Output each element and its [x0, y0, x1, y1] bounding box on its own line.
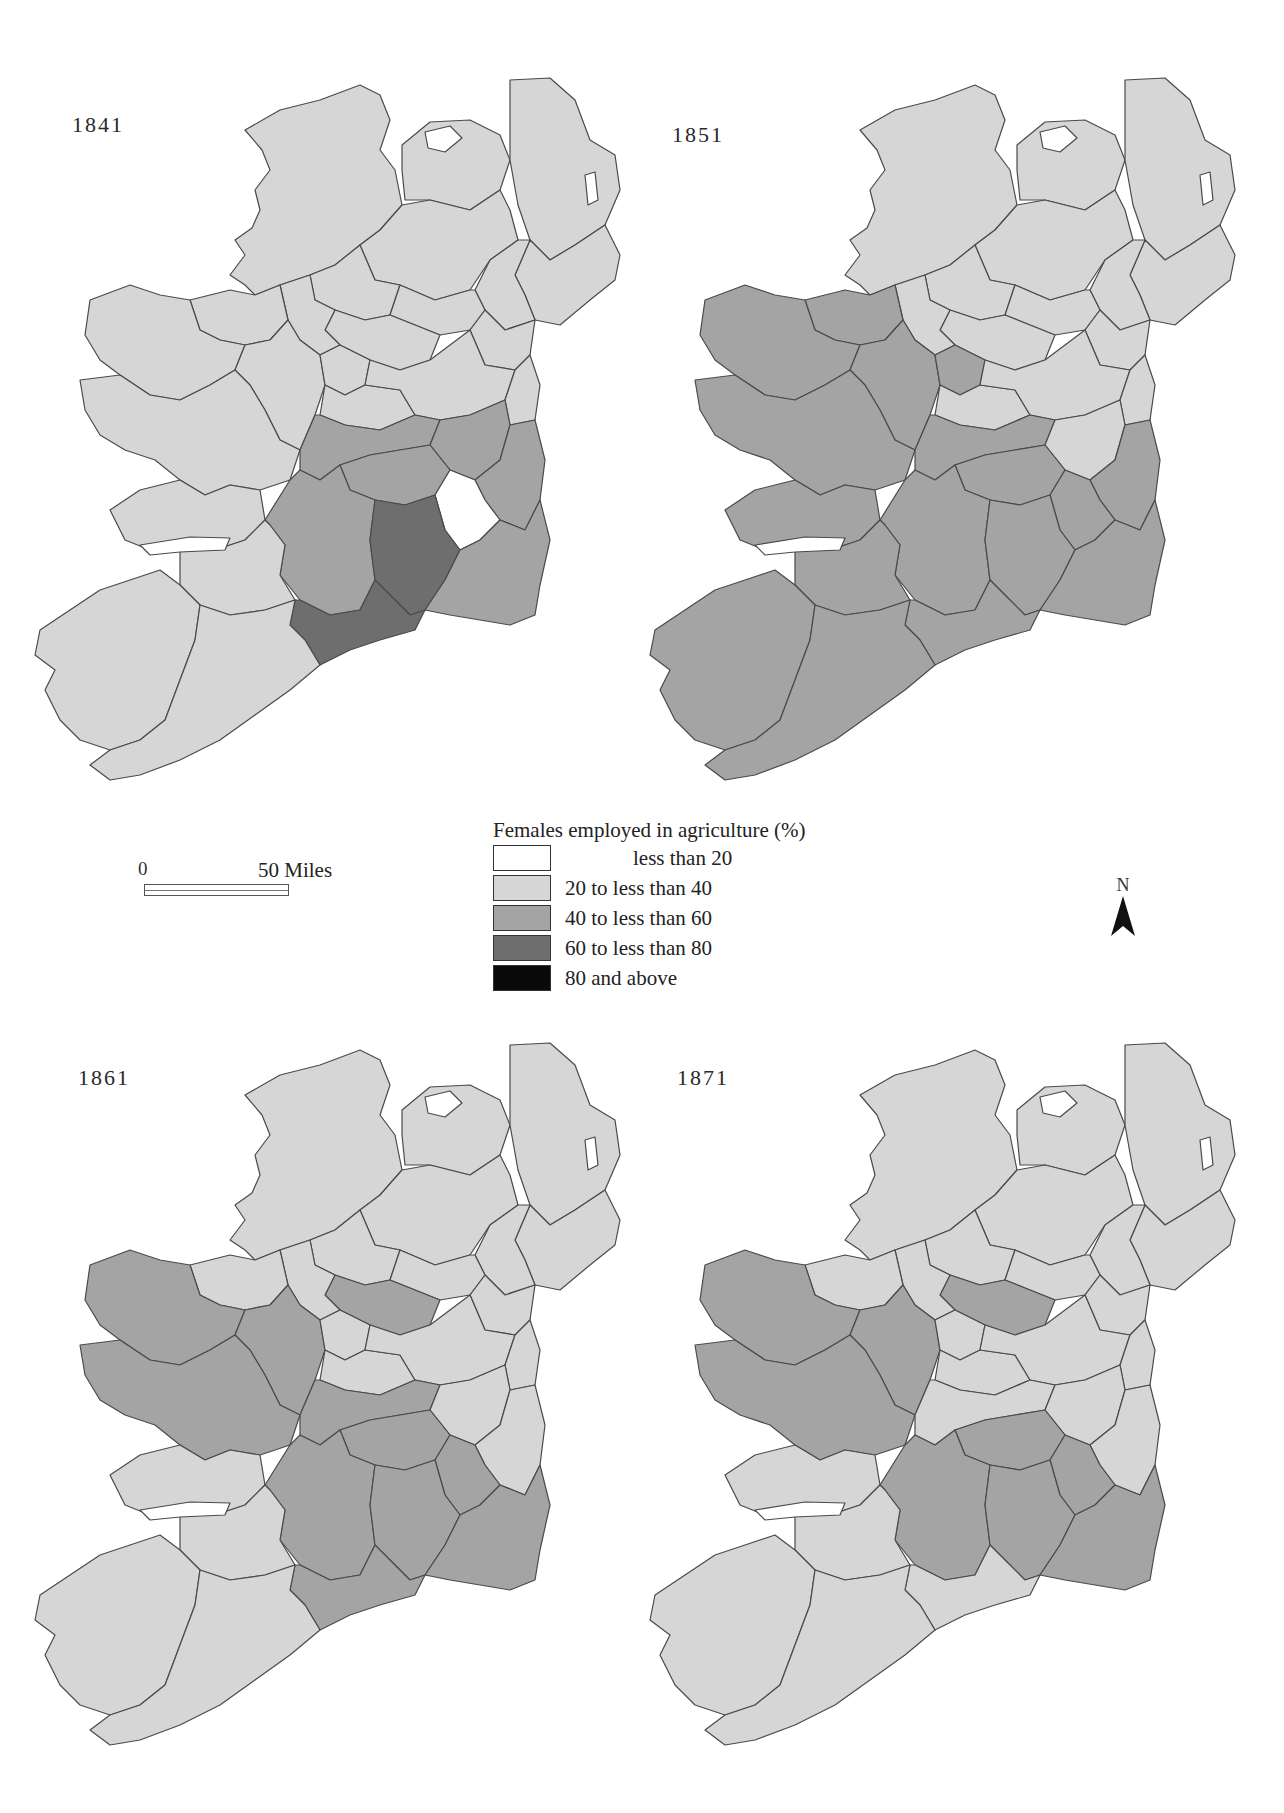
year-label-1871: 1871	[677, 1065, 729, 1091]
legend-swatch-less-than-20	[493, 845, 551, 871]
legend: Females employed in agriculture (%) less…	[488, 818, 908, 993]
legend-item: less than 20	[493, 843, 908, 873]
ireland-map-1851	[645, 40, 1245, 820]
north-label: N	[1108, 876, 1138, 894]
legend-label: 60 to less than 80	[565, 936, 712, 961]
legend-swatch-80-plus	[493, 965, 551, 991]
map-1871	[645, 1000, 1245, 1790]
legend-title: Females employed in agriculture (%)	[493, 818, 908, 843]
map-1841	[30, 40, 630, 820]
north-arrow-icon	[1108, 894, 1138, 938]
year-label-1861: 1861	[78, 1065, 130, 1091]
scale-start-label: 0	[138, 858, 148, 880]
ireland-map-1871	[645, 1000, 1245, 1790]
legend-label: 20 to less than 40	[565, 876, 712, 901]
map-1861	[30, 1000, 630, 1790]
legend-label: less than 20	[633, 846, 732, 871]
scale-bar-graphic	[144, 884, 289, 896]
legend-swatch-40-60	[493, 905, 551, 931]
north-arrow: N	[1108, 876, 1138, 942]
ireland-map-1841	[30, 40, 630, 820]
ireland-map-1861	[30, 1000, 630, 1790]
legend-item: 40 to less than 60	[493, 903, 908, 933]
year-label-1841: 1841	[72, 112, 124, 138]
map-1851	[645, 40, 1245, 820]
scale-end-label: 50 Miles	[258, 858, 332, 883]
year-label-1851: 1851	[672, 122, 724, 148]
legend-item: 60 to less than 80	[493, 933, 908, 963]
legend-item: 20 to less than 40	[493, 873, 908, 903]
legend-label: 40 to less than 60	[565, 906, 712, 931]
legend-swatch-60-80	[493, 935, 551, 961]
legend-item: 80 and above	[493, 963, 908, 993]
legend-swatch-20-40	[493, 875, 551, 901]
legend-label: 80 and above	[565, 966, 677, 991]
